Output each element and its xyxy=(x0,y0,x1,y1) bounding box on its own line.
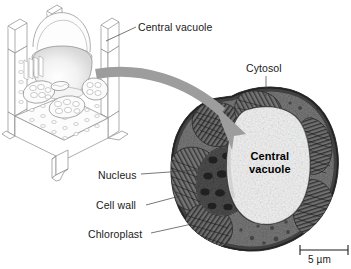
label-central-vacuole-inner-line2: vacuole xyxy=(249,163,291,176)
label-central-vacuole-inner: Central vacuole xyxy=(249,150,291,176)
label-scale-bar: 5 µm xyxy=(308,254,331,266)
label-chloroplast: Chloroplast xyxy=(88,228,142,240)
label-nucleus: Nucleus xyxy=(98,169,137,181)
label-cytosol: Cytosol xyxy=(246,62,282,74)
label-cell-wall: Cell wall xyxy=(96,199,136,211)
label-central-vacuole-inner-line1: Central xyxy=(249,150,291,163)
label-central-vacuole-top: Central vacuole xyxy=(138,21,212,33)
plant-cell-figure xyxy=(0,0,351,269)
